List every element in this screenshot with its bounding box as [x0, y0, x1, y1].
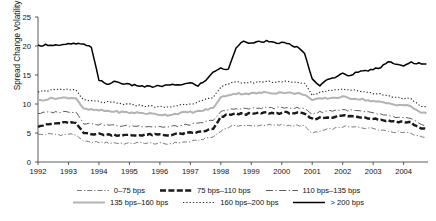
legend-swatch-icon [76, 186, 110, 195]
chart-legend: 0–75 bps75 bps–110 bps110 bps–135 bps 13… [0, 184, 436, 221]
legend-item[interactable]: 110 bps–135 bps [265, 186, 361, 195]
y-tick-label: 15 [15, 71, 31, 80]
legend-swatch-icon [182, 198, 216, 207]
legend-item[interactable]: 160 bps–200 bps [182, 198, 278, 207]
series-line [38, 124, 426, 144]
tick-marks [35, 17, 404, 165]
x-tick-label: 1992 [21, 167, 55, 176]
legend-item[interactable]: > 200 bps [292, 198, 364, 207]
legend-item[interactable]: 0–75 bps [76, 186, 145, 195]
chart-figure: Spread Change Volatility (bps/month) 051… [0, 0, 436, 221]
x-tick-label: 2004 [387, 167, 421, 176]
legend-label: 75 bps–110 bps [197, 186, 250, 195]
y-tick-label: 25 [15, 13, 31, 22]
x-tick-label: 1999 [234, 167, 268, 176]
legend-swatch-icon [159, 186, 193, 195]
x-tick-label: 2000 [265, 167, 299, 176]
series-line [38, 40, 426, 87]
x-tick-label: 1995 [112, 167, 146, 176]
legend-label: 0–75 bps [114, 186, 145, 195]
x-tick-label: 1997 [173, 167, 207, 176]
x-tick-label: 2003 [356, 167, 390, 176]
x-tick-label: 1996 [143, 167, 177, 176]
legend-row-2: 135 bps–160 bps160 bps–200 bps> 200 bps [0, 198, 436, 207]
y-tick-label: 5 [15, 129, 31, 138]
y-tick-label: 20 [15, 42, 31, 51]
data-series-group [38, 40, 426, 144]
x-tick-label: 1993 [51, 167, 85, 176]
x-tick-label: 1998 [204, 167, 238, 176]
series-line [38, 112, 426, 136]
legend-item[interactable]: 135 bps–160 bps [72, 198, 168, 207]
legend-label: 135 bps–160 bps [110, 198, 168, 207]
legend-swatch-icon [72, 198, 106, 207]
x-tick-label: 2001 [295, 167, 329, 176]
legend-item[interactable]: 75 bps–110 bps [159, 186, 250, 195]
legend-label: > 200 bps [330, 198, 364, 207]
series-line [38, 92, 426, 116]
y-tick-label: 0 [15, 158, 31, 167]
x-tick-label: 2002 [326, 167, 360, 176]
legend-label: 160 bps–200 bps [220, 198, 278, 207]
x-tick-label: 1994 [82, 167, 116, 176]
legend-swatch-icon [265, 186, 299, 195]
legend-label: 110 bps–135 bps [303, 186, 361, 195]
axis-lines [38, 17, 428, 162]
legend-swatch-icon [292, 198, 326, 207]
y-tick-label: 10 [15, 100, 31, 109]
legend-row-1: 0–75 bps75 bps–110 bps110 bps–135 bps [0, 186, 436, 195]
